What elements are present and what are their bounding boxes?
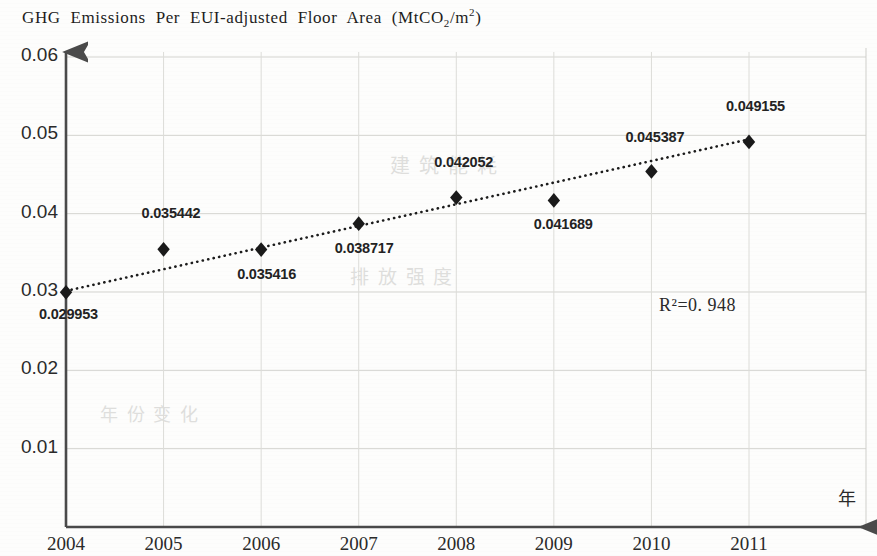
data-point-2006	[255, 242, 267, 257]
data-label-2005: 0.035442	[142, 205, 201, 221]
x-tick-label-2010: 2010	[611, 533, 691, 555]
data-label-2011: 0.049155	[726, 98, 785, 114]
x-tick-label-2007: 2007	[319, 533, 399, 555]
data-label-2007: 0.038717	[335, 240, 394, 256]
x-tick-label-2011: 2011	[709, 533, 789, 555]
vertical-gridlines	[164, 52, 749, 527]
chart-page: 建 筑 能 耗 排 放 强 度 年 份 变 化 GHG Emissions Pe…	[0, 0, 877, 556]
x-tick-label-2006: 2006	[221, 533, 301, 555]
x-tick-label-2005: 2005	[124, 533, 204, 555]
data-point-2005	[157, 242, 169, 257]
data-label-2004: 0.029953	[39, 306, 98, 322]
x-tick-label-2004: 2004	[26, 533, 106, 555]
y-tick-label-0.06: 0.06	[0, 44, 58, 66]
data-point-2007	[353, 216, 365, 231]
data-label-2009: 0.041689	[534, 216, 593, 232]
data-label-2010: 0.045387	[625, 129, 684, 145]
x-tick-label-2008: 2008	[416, 533, 496, 555]
data-label-2006: 0.035416	[237, 266, 296, 282]
y-tick-label-0.01: 0.01	[0, 436, 58, 458]
horizontal-gridlines	[66, 57, 866, 449]
data-point-2009	[548, 193, 560, 208]
x-tick-label-2009: 2009	[514, 533, 594, 555]
y-tick-label-0.03: 0.03	[0, 279, 58, 301]
r-squared-annotation: R²=0. 948	[659, 295, 736, 316]
y-tick-label-0.04: 0.04	[0, 201, 58, 223]
data-label-2008: 0.042052	[434, 154, 493, 170]
x-axis-title: 年	[838, 484, 856, 510]
r-squared-text: R²=0. 948	[659, 295, 736, 315]
data-point-2004	[60, 285, 72, 300]
data-point-2010	[645, 164, 657, 179]
y-tick-label-0.02: 0.02	[0, 357, 58, 379]
plot-area	[0, 0, 877, 556]
data-point-2011	[743, 135, 755, 150]
y-tick-label-0.05: 0.05	[0, 122, 58, 144]
